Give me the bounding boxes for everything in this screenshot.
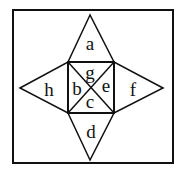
- label-d: d: [86, 121, 96, 142]
- label-c: c: [86, 91, 94, 112]
- label-f: f: [130, 79, 137, 100]
- label-h: h: [44, 79, 54, 100]
- pyramid-net-diagram: a g b e c d h f: [0, 0, 180, 174]
- triangle-f: [114, 62, 163, 113]
- label-a: a: [86, 33, 95, 54]
- label-b: b: [72, 78, 82, 99]
- label-e: e: [102, 75, 110, 96]
- label-g: g: [85, 62, 95, 83]
